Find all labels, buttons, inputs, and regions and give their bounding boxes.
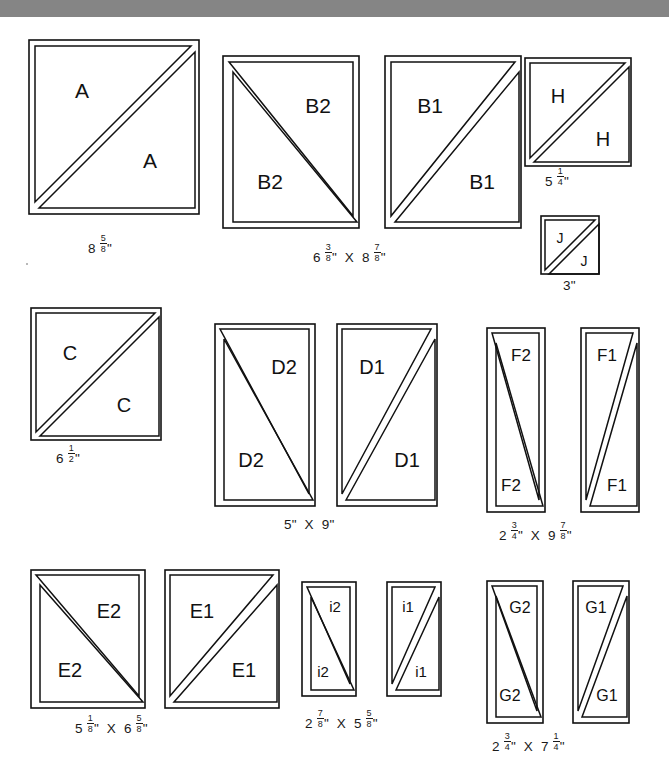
piece-label-H-upper: H — [551, 85, 565, 107]
piece-label-E1-upper: E1 — [190, 600, 214, 622]
piece-A: A A — [28, 39, 206, 221]
piece-F2: F2 F2 — [486, 327, 558, 521]
piece-J: J J — [540, 215, 608, 283]
dimension-F: 2 34" X 9 78" — [499, 523, 572, 543]
dim-C-text: 6 12" — [56, 451, 80, 466]
dim-D-text: 5" X 9" — [284, 517, 334, 532]
dimension-G: 2 34" X 7 14" — [492, 734, 565, 754]
piece-C: C C — [30, 307, 170, 449]
piece-label-G2-lower: G2 — [499, 687, 520, 704]
piece-label-F1-upper: F1 — [597, 346, 617, 365]
piece-label-D2-lower: D2 — [238, 449, 264, 471]
piece-H: H H — [524, 57, 640, 175]
piece-label-G1-lower: G1 — [596, 687, 617, 704]
dim-A-text: 8 58" — [88, 241, 112, 256]
piece-label-E2-lower: E2 — [58, 659, 82, 681]
piece-label-F2-upper: F2 — [511, 346, 531, 365]
dim-J-text: 3" — [563, 278, 576, 293]
piece-label-B2-upper: B2 — [305, 94, 331, 117]
piece-label-i1-upper: i1 — [402, 598, 414, 615]
scan-speck — [26, 263, 28, 265]
dimension-C: 6 12" — [56, 446, 80, 466]
piece-label-J-upper: J — [557, 230, 564, 246]
dim-i-text: 2 78" X 5 58" — [305, 716, 378, 731]
piece-label-D1-upper: D1 — [359, 356, 385, 378]
piece-label-J-lower: J — [581, 253, 588, 269]
piece-label-B1-lower: B1 — [469, 170, 495, 193]
piece-label-G2-upper: G2 — [509, 599, 530, 616]
dim-H-text: 5 14" — [545, 174, 569, 189]
dimension-A: 8 58" — [88, 236, 112, 256]
piece-D1: D1 D1 — [336, 323, 448, 515]
piece-label-F2-lower: F2 — [501, 476, 521, 495]
dim-G-text: 2 34" X 7 14" — [492, 739, 565, 754]
piece-label-A-upper: A — [75, 79, 89, 102]
top-gray-banner — [0, 0, 669, 17]
piece-F1: F1 F1 — [580, 327, 652, 521]
piece-label-B1-upper: B1 — [417, 94, 443, 117]
piece-i2: i2 i2 — [301, 581, 367, 705]
piece-label-A-lower: A — [143, 149, 157, 172]
piece-label-B2-lower: B2 — [257, 170, 283, 193]
pattern-sheet: A A 8 58" B2 B2 B1 B1 6 38" X 8 78" — [0, 17, 669, 764]
piece-label-E1-lower: E1 — [232, 659, 256, 681]
piece-i1: i1 i1 — [386, 581, 452, 705]
piece-label-i2-upper: i2 — [329, 598, 341, 615]
piece-G2: G2 G2 — [486, 580, 556, 732]
dimension-H: 5 14" — [545, 169, 569, 189]
piece-D2: D2 D2 — [214, 323, 326, 515]
piece-B2: B2 B2 — [222, 55, 370, 237]
piece-label-C-lower: C — [117, 394, 131, 416]
piece-label-D2-upper: D2 — [271, 356, 297, 378]
piece-G1: G1 G1 — [572, 580, 642, 732]
dim-B-text: 6 38" X 8 78" — [313, 250, 386, 265]
dimension-E: 5 18" X 6 58" — [75, 716, 148, 736]
piece-label-G1-upper: G1 — [585, 599, 606, 616]
piece-label-i2-lower: i2 — [317, 663, 329, 680]
dimension-B: 6 38" X 8 78" — [313, 245, 386, 265]
dim-E-text: 5 18" X 6 58" — [75, 721, 148, 736]
dim-F-text: 2 34" X 9 78" — [499, 528, 572, 543]
piece-E2: E2 E2 — [30, 569, 156, 717]
piece-label-i1-lower: i1 — [415, 663, 427, 680]
piece-label-C-upper: C — [63, 342, 77, 364]
piece-E1: E1 E1 — [164, 569, 290, 717]
piece-label-F1-lower: F1 — [607, 476, 627, 495]
piece-label-H-lower: H — [596, 128, 610, 150]
piece-label-E2-upper: E2 — [97, 600, 121, 622]
dimension-J: 3" — [563, 278, 576, 293]
dimension-i: 2 78" X 5 58" — [305, 711, 378, 731]
piece-label-D1-lower: D1 — [394, 449, 420, 471]
piece-B1: B1 B1 — [384, 55, 532, 237]
dimension-D: 5" X 9" — [284, 517, 334, 532]
